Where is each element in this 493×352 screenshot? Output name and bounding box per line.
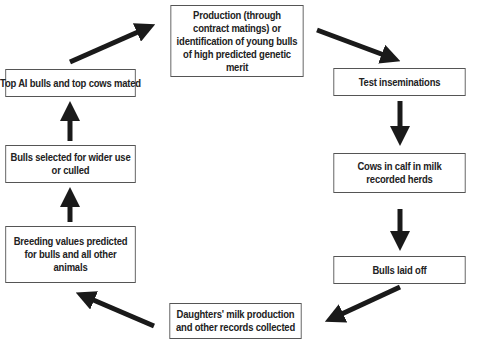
node-daughters-label: Daughters' milk production and other rec… <box>170 308 301 334</box>
node-top-ai-mated: Top AI bulls and top cows mated <box>5 69 136 97</box>
node-laidoff-label: Bulls laid off <box>369 264 430 277</box>
arrow-daughters-to-breeding <box>84 296 154 326</box>
node-cows-in-calf: Cows in calf in milk recorded herds <box>333 153 465 193</box>
node-bulls-laid-off: Bulls laid off <box>333 256 465 284</box>
node-selected-label: Bulls selected for wider use or culled <box>6 151 135 177</box>
node-production: Production (through contract matings) or… <box>170 5 303 77</box>
node-test-inseminations: Test inseminations <box>333 68 465 96</box>
node-test-label: Test inseminations <box>355 76 444 89</box>
node-breeding-values: Breeding values predicted for bulls and … <box>5 226 136 283</box>
node-production-label: Production (through contract matings) or… <box>171 9 302 74</box>
node-bulls-selected: Bulls selected for wider use or culled <box>5 145 136 183</box>
node-topai-label: Top AI bulls and top cows mated <box>0 77 141 90</box>
node-daughters-records: Daughters' milk production and other rec… <box>169 303 301 339</box>
arrow-topai-to-production <box>70 28 147 62</box>
arrow-laidoff-to-daughters <box>333 287 400 318</box>
arrow-production-to-test <box>317 30 392 58</box>
node-breeding-label: Breeding values predicted for bulls and … <box>6 235 135 274</box>
node-cows-label: Cows in calf in milk recorded herds <box>334 160 465 186</box>
